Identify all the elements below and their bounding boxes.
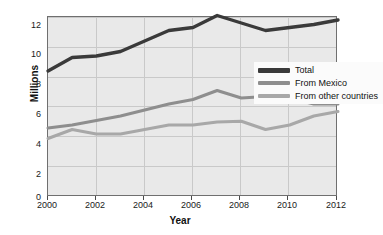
x-tick-label: 2010 — [267, 201, 307, 210]
legend-item-from-other-countries: From other countries — [258, 91, 378, 101]
series-line-other-countries — [48, 112, 338, 139]
legend-swatch-total — [258, 68, 290, 73]
y-tick-label: 4 — [23, 140, 41, 149]
x-tick-label: 2002 — [75, 201, 115, 210]
y-tick-label: 2 — [23, 170, 41, 179]
legend-label-from-other-countries: From other countries — [295, 91, 378, 101]
x-tick-label: 2004 — [123, 201, 163, 210]
legend-label-total: Total — [295, 65, 314, 75]
legend-swatch-from-other-countries — [258, 94, 290, 98]
legend-label-from-mexico: From Mexico — [295, 78, 347, 88]
x-tick-label: 2008 — [219, 201, 259, 210]
chart-legend: Total From Mexico From other countries — [254, 62, 383, 104]
y-axis-title: Millions — [29, 44, 40, 124]
x-axis-title: Year — [0, 215, 360, 226]
legend-swatch-from-mexico — [258, 81, 290, 85]
plot-area: Total From Mexico From other countries — [47, 16, 337, 196]
legend-item-from-mexico: From Mexico — [258, 78, 378, 88]
legend-item-total: Total — [258, 65, 378, 75]
x-tick-label: 2012 — [316, 201, 356, 210]
x-tick-label: 2006 — [171, 201, 211, 210]
series-lines — [48, 17, 338, 197]
y-tick-label: 12 — [23, 21, 41, 30]
x-tick-label: 2000 — [27, 201, 67, 210]
